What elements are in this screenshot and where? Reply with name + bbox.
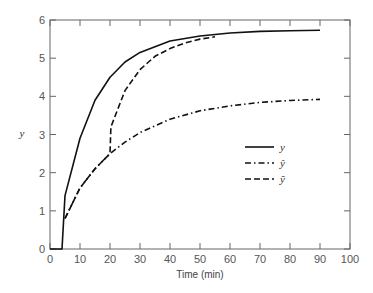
y-tick-label: 4 [39, 90, 45, 102]
chart: 01020304050607080901000123456 yŷỹ Time (… [0, 0, 373, 293]
legend: yŷỹ [245, 141, 286, 185]
y-tick-label: 6 [39, 14, 45, 26]
x-tick-label: 10 [74, 253, 86, 265]
x-tick-label: 60 [224, 253, 236, 265]
y-tick-label: 3 [39, 129, 45, 141]
x-tick-label: 20 [104, 253, 116, 265]
y-axis-label: y [19, 127, 25, 139]
plot-frame [50, 20, 350, 249]
legend-label-1: ŷ [279, 157, 285, 169]
axis-ticks: 01020304050607080901000123456 [39, 14, 359, 265]
series-line-2 [65, 37, 215, 219]
y-tick-label: 2 [39, 167, 45, 179]
series-line-0 [50, 30, 320, 249]
x-tick-label: 0 [47, 253, 53, 265]
series-lines [50, 30, 320, 249]
plot-border [50, 20, 350, 249]
x-tick-label: 70 [254, 253, 266, 265]
x-tick-label: 30 [134, 253, 146, 265]
y-tick-label: 0 [39, 243, 45, 255]
legend-label-2: ỹ [279, 173, 286, 185]
x-axis-label: Time (min) [176, 269, 223, 280]
x-tick-label: 90 [314, 253, 326, 265]
y-tick-label: 5 [39, 52, 45, 64]
y-tick-label: 1 [39, 205, 45, 217]
x-tick-label: 50 [194, 253, 206, 265]
x-tick-label: 100 [341, 253, 359, 265]
legend-label-0: y [279, 141, 285, 153]
x-tick-label: 80 [284, 253, 296, 265]
x-tick-label: 40 [164, 253, 176, 265]
